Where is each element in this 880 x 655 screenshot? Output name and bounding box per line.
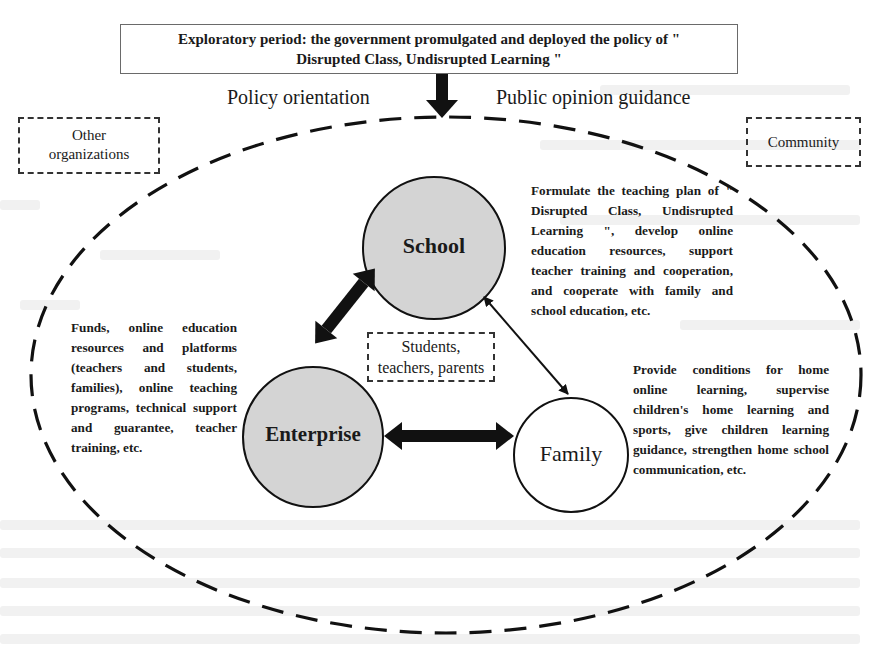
public-opinion-label: Public opinion guidance [496,86,690,109]
policy-title-line2: Disrupted Class, Undisrupted Learning " [121,49,737,69]
stakeholders-box: Students, teachers, parents [367,332,495,382]
family-node-label: Family [491,441,651,467]
community-box: Community [746,117,861,167]
enterprise-description: Funds, online education resources and pl… [71,318,237,458]
policy-title-line1: Exploratory period: the government promu… [121,29,737,49]
enterprise-node-label: Enterprise [233,422,393,447]
stakeholders-line2: teachers, parents [369,357,493,378]
school-description: Formulate the teaching plan of " Disrupt… [531,181,733,321]
other-organizations-box: Other organizations [18,117,160,174]
family-description: Provide conditions for home online learn… [633,360,829,480]
school-node-label: School [354,233,514,259]
stakeholders-line1: Students, [369,336,493,357]
other-organizations-line2: organizations [20,145,158,164]
policy-down-arrow [426,74,458,118]
community-label: Community [748,133,859,152]
policy-title-box: Exploratory period: the government promu… [120,24,738,74]
other-organizations-line1: Other [20,126,158,145]
policy-orientation-label: Policy orientation [227,86,370,109]
